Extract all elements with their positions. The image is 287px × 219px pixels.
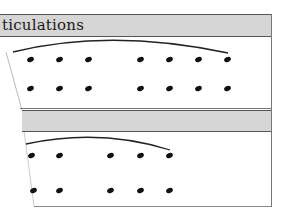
right-border	[271, 14, 272, 207]
section-divider	[20, 108, 271, 109]
slur-bottom	[26, 137, 170, 150]
bottom-border	[34, 206, 271, 207]
section-header-articulations: ticulations	[0, 14, 271, 37]
section-header-2	[22, 110, 271, 132]
book-page: ticulations	[0, 0, 287, 219]
section-title: ticulations	[2, 16, 84, 34]
slur-top	[13, 40, 228, 53]
